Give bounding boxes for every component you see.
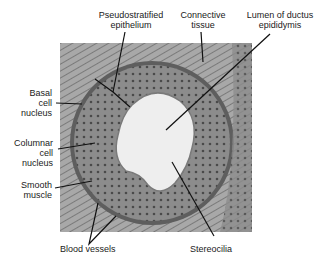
label-basal-cell-nucleus: Basal cell nucleus (6, 88, 52, 118)
label-blood-vessels: Blood vessels (60, 244, 116, 254)
label-connective-tissue: Connective tissue (177, 10, 229, 30)
leader-lines (0, 0, 317, 257)
label-smooth-muscle: Smooth muscle (6, 180, 52, 200)
label-stereocilia: Stereocilia (190, 244, 232, 254)
label-columnar-cell-nucleus: Columnar cell nucleus (6, 138, 53, 168)
label-pseudostratified-epithelium: Pseudostratified epithelium (92, 10, 170, 30)
label-lumen: Lumen of ductus epididymis (242, 10, 317, 30)
